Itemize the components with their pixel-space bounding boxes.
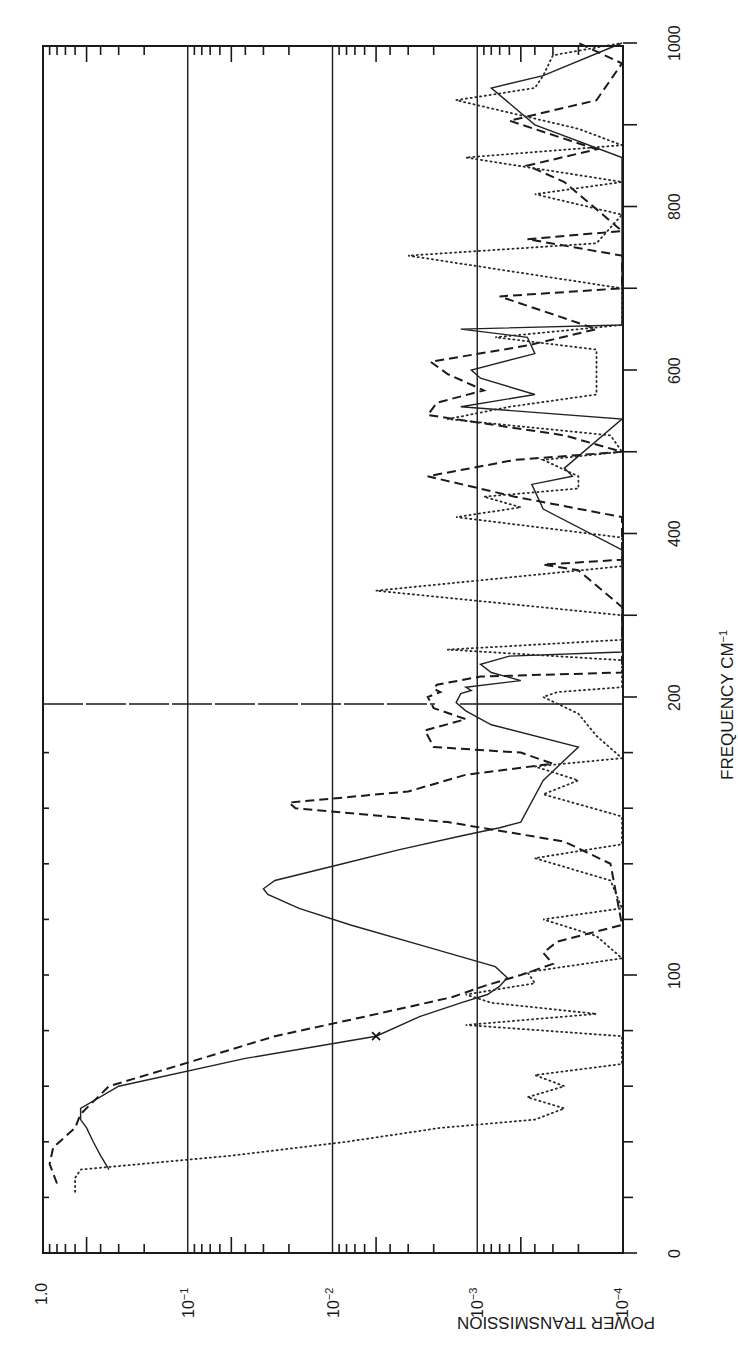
frequency-tick-label: 0: [666, 1249, 684, 1258]
frequency-axis-text: FREQUENCY CM: [718, 642, 737, 780]
gridlines: [43, 46, 623, 1253]
frequency-tick-label: 1000: [666, 25, 684, 61]
axis-ticks: [43, 43, 637, 1253]
data-series: [50, 43, 622, 1192]
transmission-tick-label: 10−1: [178, 1288, 198, 1318]
frequency-tick-label: 100: [666, 962, 684, 989]
transmission-tick-label: 1.0: [33, 1283, 51, 1305]
frequency-axis-label: FREQUENCY CM−1: [717, 630, 738, 780]
series-dashed: [50, 43, 622, 1184]
transmission-axis-label: POWER TRANSMISSION: [457, 1312, 655, 1332]
frequency-tick-label: 800: [666, 193, 684, 220]
transmission-axis-text: POWER TRANSMISSION: [457, 1313, 655, 1332]
frequency-tick-label: 200: [666, 684, 684, 711]
frequency-axis-exponent: −1: [717, 630, 729, 643]
transmission-tick-label: 10−2: [323, 1288, 343, 1318]
series-solid: [81, 43, 622, 1170]
frequency-tick-label: 600: [666, 357, 684, 384]
frequency-tick-label: 400: [666, 520, 684, 547]
